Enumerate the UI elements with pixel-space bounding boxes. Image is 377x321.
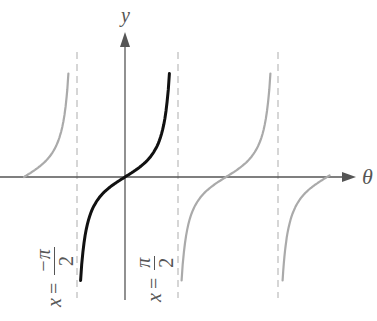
curve-branch-right-2	[283, 175, 330, 280]
label-den: 2	[155, 258, 176, 268]
label-lhs: x	[43, 298, 66, 307]
theta-axis-arrow-icon	[342, 172, 356, 182]
label-num: π	[133, 256, 155, 270]
label-eq: =	[143, 278, 166, 289]
left-asymptote-label: x = −π 2	[39, 227, 69, 307]
y-axis-arrow-icon	[120, 32, 130, 47]
y-axis-label: y	[121, 4, 130, 27]
label-lhs: x	[143, 293, 166, 302]
theta-axis-label: θ	[362, 164, 373, 190]
label-fraction: π 2	[133, 256, 176, 270]
label-den: 2	[55, 256, 76, 266]
label-num: −π	[33, 247, 55, 275]
right-asymptote-label: x = π 2	[139, 232, 169, 302]
label-eq: =	[43, 283, 66, 294]
curve-branch-left	[24, 74, 68, 178]
label-fraction: −π 2	[33, 247, 76, 275]
